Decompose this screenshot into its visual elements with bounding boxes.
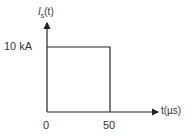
pulse-line: [47, 47, 110, 112]
y-tick-10ka: 10 kA: [4, 40, 32, 52]
x-tick-0: 0: [43, 119, 49, 131]
x-tick-50: 50: [103, 119, 115, 131]
x-axis-label: t(µs): [161, 105, 181, 116]
y-axis-label: Is(t): [38, 6, 54, 19]
